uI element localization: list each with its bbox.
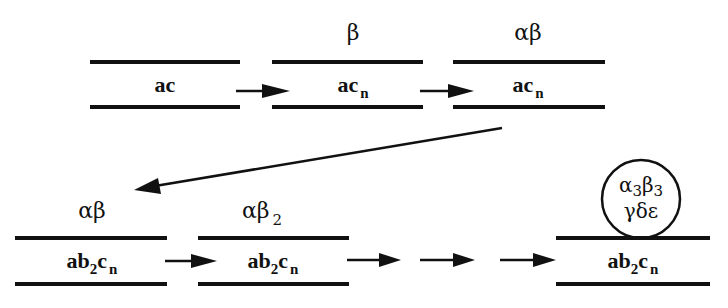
arrow-intermediate bbox=[420, 253, 475, 267]
arrow-t1-t2 bbox=[236, 84, 290, 98]
strand-label: acn bbox=[337, 72, 369, 101]
replication-diagram: ac β acn αβ acn αβ ab2cn αβ2 ab2cn bbox=[0, 0, 728, 308]
arrow-t2-t3 bbox=[420, 84, 474, 98]
arrowhead-icon bbox=[191, 254, 217, 268]
arrowhead-icon bbox=[453, 253, 475, 267]
arrowhead-icon bbox=[262, 84, 290, 98]
holoenzyme-label-line2: γδε bbox=[624, 199, 658, 223]
arrow-b2-next bbox=[347, 253, 401, 267]
strand-label: acn bbox=[512, 72, 544, 101]
complex-label: αβ bbox=[78, 198, 106, 223]
arrow-to-holoenzyme bbox=[500, 253, 556, 267]
arrow-b1-b2 bbox=[165, 254, 217, 268]
stage-ab2cn-alphabeta: αβ ab2cn bbox=[15, 198, 167, 284]
strand-label: ab2cn bbox=[67, 248, 119, 277]
strand-label: ac bbox=[155, 72, 176, 97]
stage-ab2cn-alphabeta2: αβ2 ab2cn bbox=[198, 198, 349, 284]
stage-holoenzyme: α3β3 γδε ab2cn bbox=[556, 160, 710, 284]
strand-label: ab2cn bbox=[608, 248, 660, 277]
arrowhead-icon bbox=[533, 253, 556, 267]
arrow-t3-b1 bbox=[134, 128, 502, 194]
stage-acn-beta: β acn bbox=[272, 20, 423, 107]
arrowhead-icon bbox=[379, 253, 401, 267]
complex-label: αβ2 bbox=[242, 198, 282, 229]
stage-ac: ac bbox=[90, 62, 240, 107]
arrowhead-icon bbox=[448, 84, 474, 98]
arrowhead-icon bbox=[134, 178, 161, 194]
complex-label: β bbox=[347, 20, 360, 45]
strand-label: ab2cn bbox=[248, 248, 300, 277]
complex-label: αβ bbox=[514, 20, 542, 45]
stage-acn-alphabeta: αβ acn bbox=[453, 20, 605, 107]
